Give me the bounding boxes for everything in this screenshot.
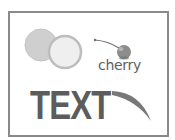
illustration-canvas: cherry TEXT <box>0 0 175 140</box>
big-text-label: TEXT <box>30 85 111 125</box>
cherry-label: cherry <box>98 57 141 73</box>
swoosh-icon <box>112 91 151 121</box>
overlapping-circles-icon <box>25 29 81 68</box>
